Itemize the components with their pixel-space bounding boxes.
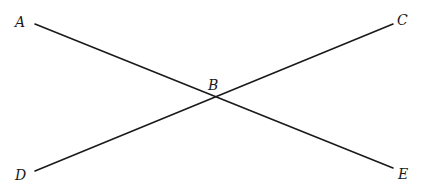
point-label-d: D <box>14 167 26 183</box>
diagram-canvas: A B C D E <box>0 0 422 188</box>
point-label-b: B <box>207 77 218 93</box>
point-label-a: A <box>13 14 25 30</box>
point-label-e: E <box>397 166 408 182</box>
point-label-c: C <box>397 12 408 28</box>
